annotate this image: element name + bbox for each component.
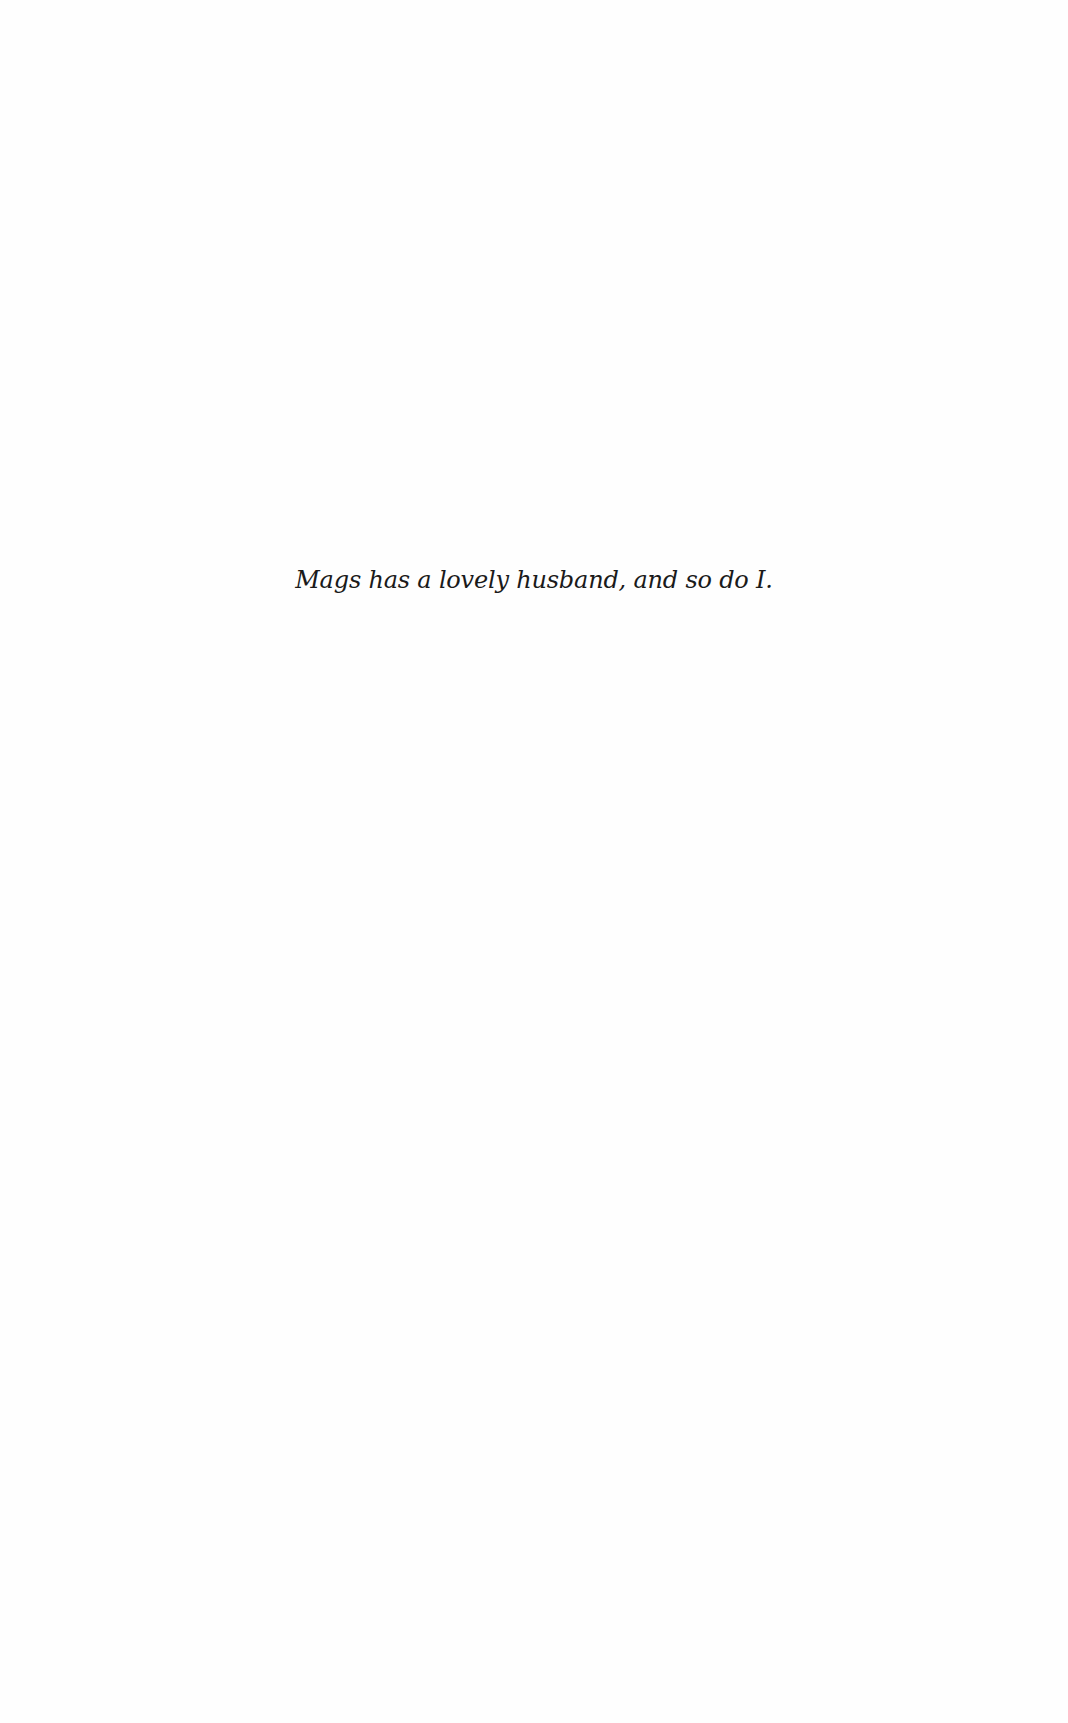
book-page: Mags has a lovely husband, and so do I.	[0, 0, 1068, 1723]
epigraph-text: Mags has a lovely husband, and so do I.	[0, 564, 1068, 596]
